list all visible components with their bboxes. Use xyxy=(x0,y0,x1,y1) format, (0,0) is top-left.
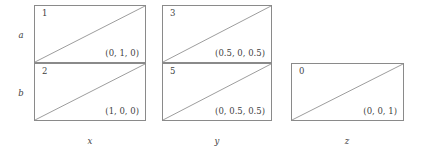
column-label: z xyxy=(332,137,362,146)
cell-index-label: 1 xyxy=(42,9,48,18)
cell-index-label: 2 xyxy=(42,67,48,76)
cell-coordinate-label: (0, 0.5, 0.5) xyxy=(215,107,265,116)
cell-coordinate-label: (0, 1, 0) xyxy=(105,49,139,58)
column-label: x xyxy=(75,137,105,146)
cell-coordinate-label: (0, 0, 1) xyxy=(363,107,397,116)
cell-index-label: 5 xyxy=(170,67,176,76)
row-label: a xyxy=(14,31,28,40)
cell-y-b: 5(0, 0.5, 0.5) xyxy=(162,63,272,121)
cell-coordinate-label: (1, 0, 0) xyxy=(105,107,139,116)
column-label: y xyxy=(202,137,232,146)
cell-x-a: 1(0, 1, 0) xyxy=(34,5,146,63)
cell-x-b: 2(1, 0, 0) xyxy=(34,63,146,121)
figure-canvas: 1(0, 1, 0)2(1, 0, 0)3(0.5, 0, 0.5)5(0, 0… xyxy=(0,0,425,156)
cell-z-b: 0(0, 0, 1) xyxy=(291,63,404,121)
cell-index-label: 0 xyxy=(299,67,305,76)
cell-y-a: 3(0.5, 0, 0.5) xyxy=(162,5,272,63)
cell-index-label: 3 xyxy=(170,9,176,18)
row-label: b xyxy=(14,89,28,98)
cell-coordinate-label: (0.5, 0, 0.5) xyxy=(215,49,265,58)
